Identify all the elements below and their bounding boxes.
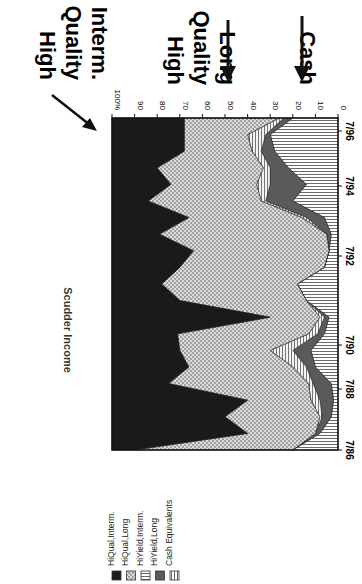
legend-label: HiQual,Long	[120, 518, 130, 566]
legend: HiQual,Interm.HiQual,LongHiYield,Interm.…	[106, 500, 180, 580]
annotation-line: Quality	[189, 10, 214, 85]
y-tick-label: 80	[158, 101, 167, 110]
y-tick-label: 70	[181, 101, 190, 110]
annotation-cash: Cash	[295, 31, 320, 85]
legend-swatch	[141, 571, 150, 580]
legend-swatch	[170, 571, 179, 580]
arrow-icon	[52, 95, 97, 131]
y-tick-label: 40	[249, 101, 258, 110]
y-tick-label: 60	[203, 101, 212, 110]
x-tick-label: 7/96	[344, 121, 355, 141]
y-axis: 0102030405060708090100%	[112, 90, 348, 118]
x-tick-label: 7/90	[344, 335, 355, 355]
y-tick-label: 30	[271, 101, 280, 110]
legend-label: HiQual,Interm.	[106, 511, 116, 566]
legend-item: HiYield,Long	[149, 518, 165, 580]
x-axis: 7/867/887/907/927/947/96	[338, 121, 355, 460]
y-tick-label: 0	[339, 106, 348, 111]
y-tick-label: 10	[316, 101, 325, 110]
chart-title: Scudder Income	[62, 287, 74, 373]
x-tick-label: 7/92	[344, 246, 355, 266]
legend-swatch	[127, 571, 136, 580]
legend-item: HiQual,Interm.	[106, 511, 122, 580]
legend-label: HiYield,Interm.	[135, 511, 145, 566]
legend-label: Cash Equivalents	[164, 500, 174, 566]
annotation-line: Cash	[295, 31, 320, 85]
y-tick-label: 50	[226, 101, 235, 110]
chart-figure: 0102030405060708090100% 7/867/887/907/92…	[0, 0, 362, 584]
y-tick-label: 100%	[113, 90, 122, 110]
x-tick-label: 7/88	[344, 379, 355, 399]
annotation-hq-interm: High Quality Interm.	[35, 5, 112, 80]
y-tick-label: 90	[136, 101, 145, 110]
x-tick-label: 7/86	[344, 440, 355, 460]
x-tick-label: 7/94	[344, 176, 355, 196]
legend-item: HiYield,Interm.	[135, 511, 151, 580]
legend-swatch	[112, 571, 121, 580]
y-tick-label: 20	[294, 101, 303, 110]
annotation-line: Interm.	[87, 7, 112, 80]
annotation-line: High	[163, 36, 188, 85]
legend-swatch	[156, 571, 165, 580]
annotation-line: High	[35, 31, 60, 80]
legend-label: HiYield,Long	[149, 518, 159, 566]
legend-item: HiQual,Long	[120, 518, 136, 580]
stacked-area-plot	[112, 118, 338, 450]
annotation-line: Quality	[61, 5, 86, 80]
legend-item: Cash Equivalents	[164, 500, 180, 580]
